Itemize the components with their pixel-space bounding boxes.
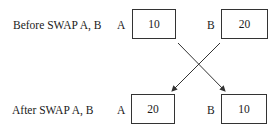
after-var-b-label: B <box>207 103 215 117</box>
arrow-b-to-a <box>172 43 220 91</box>
after-box-b: 10 <box>221 94 267 124</box>
after-box-a: 20 <box>131 94 175 124</box>
after-swap-label: After SWAP A, B <box>12 103 93 117</box>
after-var-a-label: A <box>117 103 125 117</box>
after-value-a: 20 <box>147 103 159 115</box>
after-value-b: 10 <box>238 103 250 115</box>
arrow-a-to-b <box>178 43 225 91</box>
